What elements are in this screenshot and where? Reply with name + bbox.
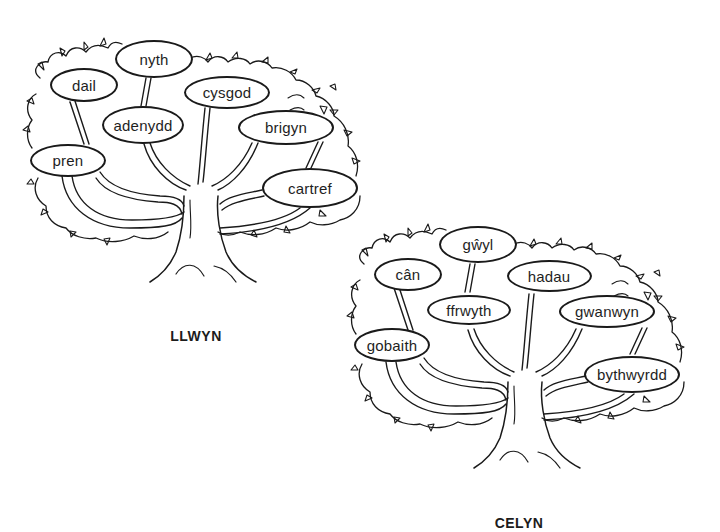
word-bubble-celyn: gŵyl — [439, 226, 517, 263]
word-bubble-llwyn: cartref — [262, 168, 358, 208]
word-bubble-celyn: cân — [374, 258, 442, 291]
word-bubble-celyn: bythwyrdd — [584, 356, 680, 393]
word-bubble-llwyn: nyth — [115, 40, 193, 78]
word-bubble-llwyn: dail — [50, 68, 118, 102]
tree-label-llwyn: LLWYN — [170, 328, 222, 344]
word-bubble-celyn: hadau — [507, 260, 592, 292]
word-bubble-celyn: gobaith — [354, 328, 430, 362]
word-bubble-celyn: gwanwyn — [559, 295, 655, 328]
word-bubble-celyn: ffrwyth — [427, 295, 511, 325]
word-bubble-llwyn: brigyn — [238, 110, 334, 145]
word-bubble-llwyn: pren — [30, 144, 106, 177]
word-bubble-llwyn: cysgod — [184, 76, 270, 109]
tree-label-celyn: CELYN — [495, 515, 544, 531]
word-bubble-llwyn: adenydd — [102, 106, 184, 144]
